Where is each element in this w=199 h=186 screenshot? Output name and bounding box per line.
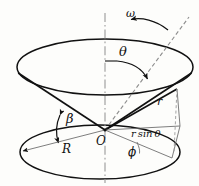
r-label: r bbox=[157, 96, 162, 107]
cone-slant-right bbox=[105, 73, 192, 130]
big-r-label: R bbox=[62, 143, 71, 155]
phi-label: ϕ bbox=[128, 146, 136, 158]
cone-geometry-figure: ω θ r β R O ϕ r sin θ bbox=[0, 0, 199, 186]
omega-rotation-arrow bbox=[131, 19, 168, 30]
origin-point bbox=[104, 129, 107, 132]
figure-canvas bbox=[0, 0, 199, 186]
projection-top-edge bbox=[177, 89, 180, 126]
rotation-axis-dashed bbox=[105, 17, 189, 130]
theta-angle-group bbox=[105, 61, 148, 79]
origin-label: O bbox=[96, 135, 106, 147]
omega-label: ω bbox=[126, 8, 135, 19]
cone-slant-left bbox=[18, 73, 105, 130]
r-sin-theta-label: r sin θ bbox=[131, 129, 161, 139]
beta-label: β bbox=[66, 112, 74, 125]
projection-right-edge bbox=[172, 126, 180, 158]
theta-arc bbox=[117, 61, 148, 79]
theta-label: θ bbox=[119, 45, 127, 58]
